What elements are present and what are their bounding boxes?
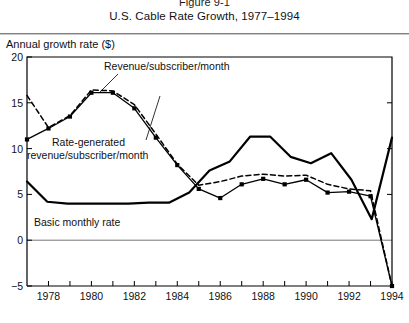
x-tick-label: 1984 [166, 290, 190, 302]
annotation-revenue: Revenue/subscriber/month [104, 60, 230, 72]
x-tick-label: 1978 [37, 290, 61, 302]
data-point [46, 126, 50, 130]
y-tick-label: 5 [17, 188, 23, 200]
annotation-rate-generated-1: Rate-generated [52, 136, 125, 148]
cable-rate-growth-chart: −505101520197819801982198419861988199019… [0, 0, 409, 323]
data-point [89, 91, 93, 95]
data-point [325, 190, 329, 194]
x-tick-label: 1988 [251, 290, 275, 302]
data-point [368, 194, 372, 198]
x-tick-label: 1980 [80, 290, 104, 302]
x-tick-label: 1990 [294, 290, 318, 302]
data-point [25, 137, 29, 141]
series-line-0 [27, 90, 392, 286]
annotation-rate-generated-2: revenue/subscriber/month [27, 149, 149, 161]
y-tick-label: 0 [17, 234, 23, 246]
data-point [304, 178, 308, 182]
x-tick-label: 1994 [380, 290, 404, 302]
leader-revenue [100, 74, 118, 92]
data-point [111, 91, 115, 95]
data-point [283, 182, 287, 186]
series-line-1 [27, 93, 392, 286]
data-point [154, 136, 158, 140]
y-tick-label: 20 [11, 51, 23, 63]
data-point [175, 163, 179, 167]
data-point [240, 182, 244, 186]
x-tick-label: 1982 [123, 290, 147, 302]
data-point [68, 114, 72, 118]
y-tick-label: 10 [11, 143, 23, 155]
data-point [132, 106, 136, 110]
data-point [218, 196, 222, 200]
data-point [390, 284, 394, 288]
x-tick-label: 1986 [209, 290, 233, 302]
data-point [197, 187, 201, 191]
y-tick-label: −5 [11, 280, 23, 292]
data-point [261, 177, 265, 181]
data-point [347, 190, 351, 194]
x-tick-label: 1992 [337, 290, 361, 302]
y-tick-label: 15 [11, 97, 23, 109]
annotation-basic-monthly-rate: Basic monthly rate [34, 216, 121, 228]
